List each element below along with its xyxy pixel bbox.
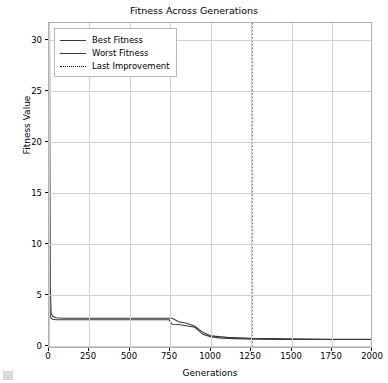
x-tick-mark-2: [129, 348, 130, 351]
x-tick-mark-5: [250, 348, 251, 351]
legend-item-last-improvement: Last Improvement: [60, 59, 170, 72]
x-tick-mark-8: [371, 348, 372, 351]
gridline-h-10: [49, 244, 371, 245]
x-axis-label: Generations: [48, 368, 372, 378]
gridline-h-25: [49, 91, 371, 92]
gridline-v-1750: [332, 23, 333, 347]
y-tick-label-5: 25: [12, 86, 42, 96]
x-tick-label-6: 1500: [271, 351, 311, 361]
legend-line-icon-best-fitness: [60, 36, 86, 44]
x-tick-mark-4: [210, 348, 211, 351]
legend-label-best-fitness: Best Fitness: [92, 35, 143, 45]
legend-label-last-improvement: Last Improvement: [92, 61, 170, 71]
gridline-h-5: [49, 295, 371, 296]
gridline-v-0: [49, 23, 50, 347]
gridline-v-1250: [251, 23, 252, 347]
gridline-v-1500: [292, 23, 293, 347]
x-tick-label-0: 0: [28, 351, 68, 361]
x-tick-label-5: 1250: [230, 351, 270, 361]
legend-item-worst-fitness: Worst Fitness: [60, 46, 170, 59]
y-axis-label: Fitness Value: [22, 65, 32, 185]
y-tick-label-6: 30: [12, 35, 42, 45]
x-tick-label-2: 500: [109, 351, 149, 361]
corner-marker: [3, 371, 13, 380]
y-tick-label-0: 0: [12, 341, 42, 351]
legend: Best Fitness Worst Fitness Last Improvem…: [54, 28, 177, 77]
x-tick-mark-7: [331, 348, 332, 351]
legend-line-icon-worst-fitness: [60, 49, 86, 57]
x-tick-label-8: 2000: [352, 351, 388, 361]
x-tick-label-1: 250: [68, 351, 108, 361]
y-tick-label-3: 15: [12, 188, 42, 198]
gridline-h-20: [49, 142, 371, 143]
legend-line-icon-last-improvement: [60, 62, 86, 70]
chart-figure: Fitness Across Generations Fitness Value…: [0, 0, 388, 383]
y-tick-label-4: 20: [12, 137, 42, 147]
legend-label-worst-fitness: Worst Fitness: [92, 48, 149, 58]
y-tick-label-2: 10: [12, 239, 42, 249]
x-tick-mark-1: [88, 348, 89, 351]
gridline-h-0: [49, 346, 371, 347]
x-tick-label-4: 1000: [190, 351, 230, 361]
x-tick-mark-6: [291, 348, 292, 351]
x-tick-mark-0: [48, 348, 49, 351]
y-tick-label-1: 5: [12, 290, 42, 300]
chart-title: Fitness Across Generations: [0, 5, 388, 16]
gridline-h-15: [49, 193, 371, 194]
gridline-v-1000: [211, 23, 212, 347]
x-tick-mark-3: [169, 348, 170, 351]
x-tick-label-3: 750: [149, 351, 189, 361]
legend-item-best-fitness: Best Fitness: [60, 33, 170, 46]
x-tick-label-7: 1750: [311, 351, 351, 361]
